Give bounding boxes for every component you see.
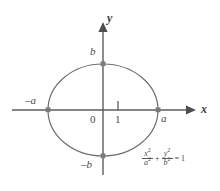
x-axis-arrow-icon (186, 105, 196, 114)
equation-y-denominator: b2 (162, 158, 173, 167)
ellipse-diagram: x y 0 1 a –a b –b x2 a2 + y2 b2 = 1 (0, 0, 220, 191)
vertex-label-negative-b: –b (81, 159, 92, 170)
vertex-label-b: b (90, 46, 96, 57)
x-axis-label: x (201, 103, 207, 115)
equation-y-fraction: y2 b2 (162, 150, 173, 167)
equation-x-denominator: a2 (142, 158, 153, 167)
origin-label: 0 (90, 114, 96, 125)
equation-result: 1 (181, 155, 185, 163)
vertex-point-left (46, 107, 51, 112)
equation-y-numerator-exponent: 2 (167, 147, 170, 153)
vertex-label-negative-a: –a (25, 95, 36, 106)
equation-equals-sign: = (175, 155, 180, 163)
equation-b-exponent: 2 (168, 156, 171, 162)
vertex-point-bottom (101, 153, 106, 158)
y-axis-label: y (107, 12, 112, 24)
equation-plus-operator: + (155, 155, 160, 163)
ellipse-equation: x2 a2 + y2 b2 = 1 (141, 150, 186, 167)
vertex-label-a: a (161, 113, 167, 124)
equation-a-exponent: 2 (148, 156, 151, 162)
unit-tick-label: 1 (115, 114, 121, 125)
equation-x-fraction: x2 a2 (142, 150, 153, 167)
vertex-point-right (156, 107, 161, 112)
equation-x-numerator-exponent: 2 (148, 147, 151, 153)
vertex-point-top (101, 61, 106, 66)
